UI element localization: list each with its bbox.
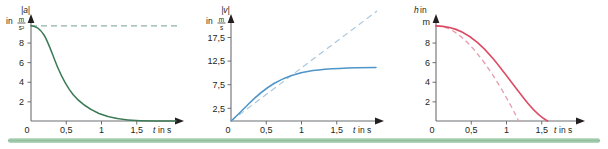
x-tick-label: 0,5: [260, 125, 273, 135]
origin-label: 0: [24, 125, 29, 135]
y-axis-arrow: [28, 14, 35, 23]
chart-acceleration-svg: 8 6 4 2 0,5 1 1,5 0 |a| in m s² t in s: [0, 0, 200, 135]
y-tick-label: 7,5: [212, 80, 225, 90]
x-tick-label: 0,5: [60, 125, 73, 135]
y-axis-in-word: in: [6, 16, 13, 26]
y-axis-symbol: h: [414, 5, 419, 15]
y-tick-label: 2: [425, 97, 430, 107]
x-tick-label: 1,5: [330, 125, 343, 135]
y-tick-label: 6: [425, 58, 430, 68]
chart-height-svg: 8 6 4 2 0,5 1 1,5 0 h in m t in s: [405, 0, 608, 135]
y-axis-in-word: in: [420, 5, 427, 15]
y-axis-arrow: [433, 14, 440, 23]
x-axis-label-rest: in s: [358, 125, 371, 135]
x-axis-label-rest: in s: [559, 125, 572, 135]
x-axis-symbol: t: [554, 125, 557, 135]
x-axis-arrow: [375, 118, 384, 125]
y-tick-label: 4: [19, 77, 24, 87]
x-tick-label: 1: [99, 125, 104, 135]
y-tick-label: 2: [19, 97, 24, 107]
x-tick-label: 1: [504, 125, 509, 135]
x-tick-label: 1,5: [130, 125, 143, 135]
height-curve: [436, 26, 548, 121]
chart-velocity-svg: 17,5 12,5 7,5 2,5 0,5 1 1,5 0 |v| in m s…: [200, 0, 405, 135]
y-tick-label: 12,5: [207, 56, 225, 66]
x-tick-label: 1,5: [535, 125, 548, 135]
x-tick-label: 1: [299, 125, 304, 135]
y-tick-label: 8: [425, 38, 430, 48]
chart-acceleration: 8 6 4 2 0,5 1 1,5 0 |a| in m s² t in s: [0, 0, 200, 135]
y-axis-unit-numerator: m: [219, 16, 224, 23]
origin-label: 0: [225, 125, 230, 135]
y-axis-unit-numerator: m: [19, 16, 24, 23]
acceleration-curve: [31, 26, 176, 121]
y-axis-arrow: [228, 14, 235, 23]
x-axis-label-rest: in s: [158, 125, 171, 135]
chart-height: 8 6 4 2 0,5 1 1,5 0 h in m t in s: [405, 0, 608, 135]
y-tick-label: 17,5: [207, 33, 225, 43]
y-axis-unit-label: m: [423, 17, 431, 27]
y-axis-unit-denominator: s: [220, 24, 224, 31]
y-axis-symbol: |a|: [21, 5, 30, 15]
velocity-curve: [231, 67, 376, 121]
bottom-divider-rule: [8, 138, 600, 143]
free-fall-velocity-line: [231, 11, 377, 121]
y-tick-label: 4: [425, 77, 430, 87]
chart-velocity: 17,5 12,5 7,5 2,5 0,5 1 1,5 0 |v| in m s…: [200, 0, 405, 135]
x-axis-symbol: t: [353, 125, 356, 135]
origin-label: 0: [429, 125, 434, 135]
y-tick-label: 2,5: [212, 104, 225, 114]
y-axis-symbol: |v|: [221, 5, 230, 15]
y-tick-label: 6: [19, 58, 24, 68]
x-axis-arrow: [576, 118, 585, 125]
figure-root: 8 6 4 2 0,5 1 1,5 0 |a| in m s² t in s: [0, 0, 608, 149]
y-axis-unit-denominator: s²: [19, 24, 25, 31]
y-tick-label: 8: [19, 38, 24, 48]
x-tick-label: 0,5: [465, 125, 478, 135]
x-axis-symbol: t: [153, 125, 156, 135]
y-axis-in-word: in: [206, 16, 213, 26]
free-fall-height-curve: [436, 26, 519, 121]
